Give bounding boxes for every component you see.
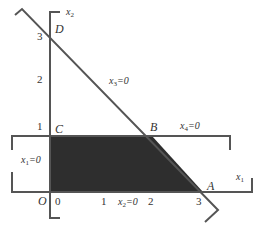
x1-zero-label: x1=0 [20, 154, 41, 167]
point-d-label: D [54, 22, 64, 36]
x1-axis-label: x1 [235, 171, 244, 184]
y-tick-1: 1 [37, 120, 43, 132]
x3-zero-label: x3=0 [108, 75, 129, 88]
y-tick-2: 2 [37, 73, 43, 85]
point-o-label: O [38, 194, 47, 208]
point-c-label: C [55, 122, 64, 136]
x-tick-1: 1 [101, 195, 107, 207]
point-a-label: A [206, 179, 215, 193]
x-tick-3: 3 [196, 195, 202, 207]
x-tick-2: 2 [148, 195, 154, 207]
x4-zero-label: x4=0 [179, 120, 200, 133]
feasible-region [50, 136, 203, 192]
y-tick-3: 3 [37, 30, 43, 42]
x2-zero-label: x2=0 [117, 196, 138, 209]
x-tick-0: 0 [55, 195, 61, 207]
x2-axis-label: x2 [65, 6, 74, 19]
feasible-region-diagram: x2 x1 D C B A O 3 2 1 0 1 2 3 x3=0 x4=0 … [0, 0, 264, 233]
point-b-label: B [150, 120, 158, 134]
